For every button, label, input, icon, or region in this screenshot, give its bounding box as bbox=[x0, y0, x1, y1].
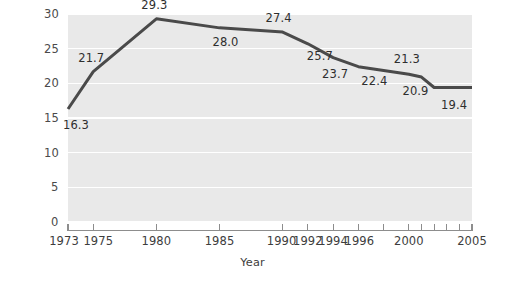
x-axis-tick bbox=[358, 224, 359, 231]
plot-area bbox=[68, 14, 472, 222]
data-point-label: 29.3 bbox=[141, 0, 167, 12]
x-axis-tick-label: 1996 bbox=[345, 234, 375, 248]
x-axis-tick bbox=[93, 224, 94, 231]
data-point-label: 19.4 bbox=[441, 98, 467, 112]
x-axis-tick bbox=[67, 224, 68, 231]
data-point-label: 21.3 bbox=[394, 52, 420, 66]
x-axis-tick bbox=[282, 224, 283, 231]
x-axis-title: Year bbox=[0, 256, 505, 269]
data-point-label: 22.4 bbox=[361, 74, 387, 88]
x-axis-tick bbox=[219, 224, 220, 231]
x-axis-tick-label: 1973 bbox=[49, 234, 79, 248]
x-axis-tick bbox=[307, 224, 308, 231]
data-series-line bbox=[68, 14, 472, 222]
y-axis-tick-label: 0 bbox=[51, 215, 58, 229]
x-axis-tick-label: 1985 bbox=[205, 234, 235, 248]
abortion-rate-line-chart: Abortions per 1,000 women aged 15–44 051… bbox=[0, 0, 505, 285]
x-axis-tick bbox=[156, 224, 157, 231]
y-axis-tick-label: 10 bbox=[44, 146, 59, 160]
x-axis-tick bbox=[459, 224, 460, 231]
y-axis-tick-label: 20 bbox=[44, 76, 59, 90]
data-point-label: 21.7 bbox=[78, 51, 104, 65]
data-point-label: 25.7 bbox=[307, 49, 333, 63]
y-axis-title-container: Abortions per 1,000 women aged 15–44 bbox=[24, 14, 25, 222]
x-axis-tick bbox=[471, 224, 472, 231]
y-axis-tick-label: 25 bbox=[44, 42, 59, 56]
x-axis-tick-label: 1975 bbox=[83, 234, 113, 248]
data-point-label: 16.3 bbox=[63, 118, 89, 132]
x-axis-tick-label: 1990 bbox=[267, 234, 297, 248]
y-axis-tick-label: 15 bbox=[44, 111, 59, 125]
y-axis-tick-label: 30 bbox=[44, 7, 59, 21]
data-point-label: 28.0 bbox=[212, 35, 238, 49]
x-axis-tick bbox=[408, 224, 409, 231]
data-point-label: 27.4 bbox=[266, 11, 292, 25]
x-axis-tick-label: 2005 bbox=[457, 234, 487, 248]
x-axis-tick-label: 1980 bbox=[142, 234, 172, 248]
x-axis-line bbox=[68, 230, 472, 231]
x-axis-tick bbox=[446, 224, 447, 231]
x-axis-tick-label: 2000 bbox=[394, 234, 424, 248]
data-point-label: 23.7 bbox=[322, 67, 348, 81]
x-axis-tick bbox=[383, 224, 384, 231]
x-axis-tick-label: 1994 bbox=[318, 234, 348, 248]
x-axis-tick bbox=[421, 224, 422, 231]
y-axis-tick-label: 5 bbox=[51, 180, 58, 194]
x-axis-tick bbox=[434, 224, 435, 231]
data-point-label: 20.9 bbox=[402, 84, 428, 98]
x-axis-tick bbox=[333, 224, 334, 231]
